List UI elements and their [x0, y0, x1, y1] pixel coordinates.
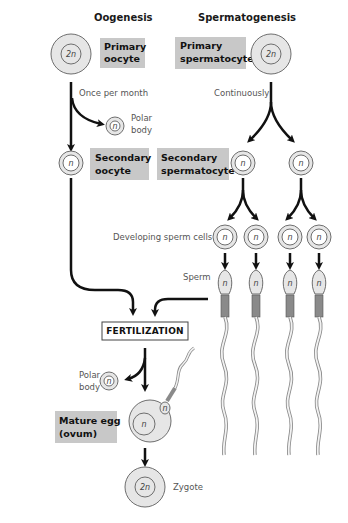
zygote-cell: 2n	[125, 467, 165, 507]
svg-text:n: n	[240, 159, 245, 168]
polar-body-1-cell: n	[106, 117, 124, 135]
svg-text:2n: 2n	[266, 50, 276, 59]
continuously-label: Continuously	[214, 88, 269, 98]
developing-sperm-cell-2: n	[244, 225, 268, 249]
developing-sperm-cell-1: n	[213, 225, 237, 249]
secondary-spermatocyte-cell-1: n	[231, 151, 255, 175]
svg-text:n: n	[298, 159, 303, 168]
arrow-to-polar-body-2	[128, 358, 145, 379]
secondary-spermatocyte-label-1: Secondary	[161, 152, 218, 163]
fertilization-label: FERTILIZATION	[106, 326, 183, 336]
arrow-egg-to-fertilization	[71, 178, 133, 312]
sperm-3: n	[283, 270, 297, 455]
polar-body-2-label-2: body	[79, 382, 100, 392]
primary-spermatocyte-label-1: Primary	[180, 40, 223, 51]
polar-body-2-cell: n	[100, 372, 118, 390]
polar-body-1-label-1: Polar	[131, 113, 153, 123]
developing-sperm-cell-4: n	[307, 225, 331, 249]
sperm-1: n	[218, 270, 232, 455]
spermatogenesis-title: Spermatogenesis	[198, 12, 296, 23]
mature-egg-label-1: Mature egg	[59, 415, 121, 426]
svg-text:2n: 2n	[140, 483, 150, 492]
primary-oocyte-label-2: oocyte	[104, 53, 140, 64]
arrow-split-1b	[243, 190, 256, 218]
zygote-label: Zygote	[173, 482, 203, 492]
arrow-split-2b	[301, 190, 314, 218]
arrow-sperm-to-fertilization	[155, 299, 208, 313]
svg-text:n: n	[141, 420, 146, 429]
once-per-month-label: Once per month	[79, 88, 148, 98]
mature-egg-cell: n n	[129, 348, 194, 442]
svg-text:n: n	[316, 279, 321, 288]
primary-spermatocyte-cell: 2n	[251, 34, 291, 74]
arrow-split-1a	[230, 178, 243, 218]
arrow-split-2a	[288, 178, 301, 218]
secondary-oocyte-cell: n	[59, 151, 83, 175]
secondary-spermatocyte-cell-2: n	[289, 151, 313, 175]
arrow-to-secondary-spermatocyte-2	[271, 102, 292, 140]
primary-spermatocyte-label-2: spermatocyte	[180, 53, 254, 64]
svg-text:n: n	[287, 233, 292, 242]
polar-body-1-label-2: body	[131, 125, 152, 135]
svg-text:n: n	[222, 279, 227, 288]
polar-body-2-label-1: Polar	[79, 370, 101, 380]
developing-sperm-cell-3: n	[278, 225, 302, 249]
secondary-oocyte-label-2: oocyte	[95, 165, 131, 176]
svg-text:n: n	[253, 233, 258, 242]
svg-text:2n: 2n	[66, 50, 76, 59]
svg-text:n: n	[106, 377, 111, 386]
secondary-oocyte-label-1: Secondary	[95, 152, 152, 163]
developing-sperm-label: Developing sperm cells	[113, 232, 213, 242]
svg-text:n: n	[222, 233, 227, 242]
svg-text:n: n	[162, 404, 167, 413]
svg-text:n: n	[68, 159, 73, 168]
sperm-label: Sperm	[183, 272, 211, 282]
svg-text:n: n	[287, 279, 292, 288]
primary-oocyte-cell: 2n	[51, 34, 91, 74]
mature-egg-label-2: (ovum)	[59, 428, 97, 439]
gametogenesis-diagram: Oogenesis Spermatogenesis 2n Primary ooc…	[0, 0, 348, 523]
svg-text:n: n	[112, 122, 117, 131]
primary-oocyte-label-1: Primary	[104, 41, 147, 52]
oogenesis-title: Oogenesis	[94, 12, 153, 23]
svg-text:n: n	[316, 233, 321, 242]
arrow-to-polar-body-1	[72, 98, 101, 124]
svg-text:n: n	[253, 279, 258, 288]
sperm-4: n	[312, 270, 326, 455]
secondary-spermatocyte-label-2: spermatocyte	[161, 165, 235, 176]
sperm-2: n	[249, 270, 263, 455]
